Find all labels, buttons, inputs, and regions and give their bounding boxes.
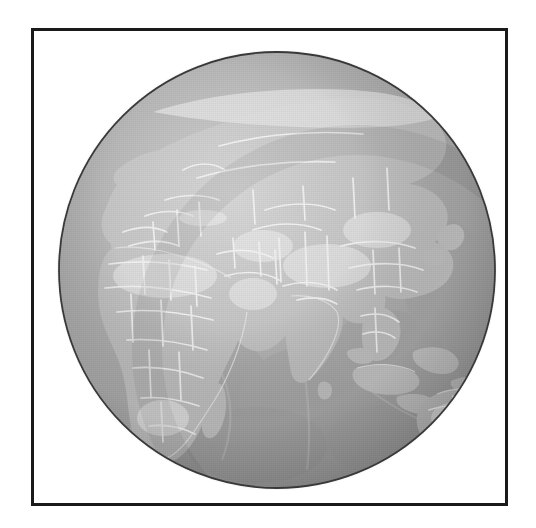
sphere-shading bbox=[59, 52, 495, 488]
globe-graphic bbox=[57, 50, 497, 490]
map-frame bbox=[31, 28, 508, 506]
globe-stage bbox=[34, 31, 505, 503]
figure-root: Orthographic globe, Eastern Hemisphere bbox=[0, 0, 536, 528]
